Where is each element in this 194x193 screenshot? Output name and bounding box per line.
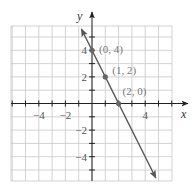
x-tick-label: 4 [142, 109, 148, 121]
y-tick-label: 4 [82, 44, 88, 56]
x-tick-label: −4 [33, 109, 45, 121]
point-label: (1, 2) [112, 64, 136, 77]
x-tick-label: −2 [60, 109, 72, 121]
data-point [116, 101, 121, 106]
y-tick-label: −4 [75, 151, 87, 163]
coordinate-plane: −4−2442−2−4 (0, 4)(1, 2)(2, 0) x y [0, 0, 194, 193]
y-tick-label: 2 [82, 71, 88, 83]
point-label: (2, 0) [123, 85, 147, 98]
y-axis-label: y [76, 9, 83, 23]
y-tick-label: −2 [75, 124, 87, 136]
data-point [103, 74, 108, 79]
data-point [89, 48, 94, 53]
point-label: (0, 4) [99, 43, 123, 56]
x-axis-label: x [180, 107, 187, 121]
